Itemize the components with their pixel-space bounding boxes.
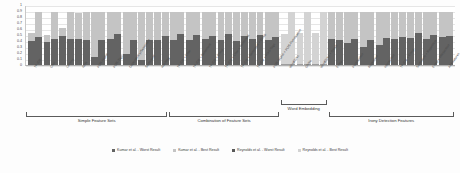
bar[interactable] (44, 6, 51, 65)
bar-segment-best (107, 12, 114, 39)
legend-label: Kumar et al. - Worst Result (117, 149, 160, 153)
bar[interactable] (312, 6, 319, 65)
bar-segment-worst (391, 39, 398, 65)
y-tick-label: 0 (20, 64, 22, 68)
bar-segment-best (383, 12, 390, 38)
bar-segment-best (272, 12, 279, 37)
bar[interactable] (51, 6, 58, 65)
group-bracket-label: Simple Feature Sets (78, 119, 116, 123)
legend-swatch (173, 149, 176, 152)
bar[interactable] (59, 6, 66, 65)
bar[interactable] (91, 6, 98, 65)
bar-segment-worst (75, 39, 82, 65)
bar-segment-best (83, 12, 90, 40)
bar-segment-best (98, 12, 105, 40)
y-tick-label: 0.6 (17, 28, 22, 32)
bar-segment-best (130, 12, 137, 40)
legend-swatch (232, 149, 235, 152)
bar-segment-worst (44, 42, 51, 65)
bar-segment-worst (170, 40, 177, 65)
y-tick-label: 0.9 (17, 10, 22, 14)
chart-legend: Kumar et al. - Worst ResultKumar et al. … (0, 149, 460, 153)
bar-segment-worst (28, 41, 35, 65)
bar[interactable] (35, 6, 42, 65)
bar[interactable] (430, 6, 437, 65)
legend-label: Reynolds et al. - Worst Result (237, 149, 284, 153)
bar[interactable] (28, 6, 35, 65)
bar-segment-best (399, 12, 406, 37)
bar-segment-best (146, 12, 153, 40)
bar[interactable] (415, 6, 422, 65)
y-tick-label: 1 (20, 4, 22, 8)
bar[interactable] (336, 6, 343, 65)
legend-item[interactable]: Kumar et al. - Worst Result (112, 149, 160, 153)
bar-segment-best (218, 12, 225, 40)
legend-swatch (112, 149, 115, 152)
bar-segment-best (336, 12, 343, 40)
bar-segment-best (225, 12, 232, 35)
group-bracket (329, 112, 454, 117)
bar-group[interactable] (74, 6, 90, 65)
bar-segment-worst (312, 64, 319, 65)
bar-segment-best (186, 12, 193, 40)
bar-segment-best (202, 12, 209, 39)
bar[interactable] (67, 6, 74, 65)
bar-segment-worst (154, 40, 161, 65)
legend-item[interactable]: Kumar et al. - Best Result (173, 149, 219, 153)
bar-segment-best (328, 12, 335, 38)
y-tick-label: 0.1 (17, 58, 22, 62)
group-bracket (169, 112, 278, 117)
group-bracket (281, 100, 327, 105)
bar-segment-best (35, 12, 42, 37)
bar-segment-best (170, 12, 177, 40)
y-tick-label: 0.2 (17, 52, 22, 56)
bar-segment-worst (344, 43, 351, 65)
bar[interactable] (83, 6, 90, 65)
bar-segment-worst (59, 36, 66, 65)
bar-segment-best (367, 12, 374, 40)
bar-segment-best (233, 12, 240, 41)
y-tick-label: 0.4 (17, 40, 22, 44)
legend-item[interactable]: Reynolds et al. - Best Result (298, 149, 348, 153)
bar-segment-best (44, 35, 51, 42)
bar-segment-best (114, 12, 121, 35)
bar-segment-best (193, 12, 200, 35)
legend-label: Kumar et al. - Best Result (178, 149, 219, 153)
chart-figure: 10.90.80.70.60.50.40.30.20.10 TF-IDFChar… (0, 0, 460, 173)
bar-segment-best (177, 12, 184, 35)
bar-segment-best (59, 28, 66, 36)
bar-segment-best (51, 12, 58, 39)
y-tick-label: 0.8 (17, 16, 22, 20)
y-tick-label: 0.7 (17, 22, 22, 26)
bar-segment-worst (297, 64, 304, 65)
bar-segment-best (209, 12, 216, 36)
legend-item[interactable]: Reynolds et al. - Worst Result (232, 149, 284, 153)
x-tick-label: NER (82, 61, 89, 69)
bar-segment-best (376, 12, 383, 45)
bar-group[interactable] (27, 6, 43, 65)
y-axis: 10.90.80.70.60.50.40.30.20.10 (0, 6, 24, 66)
bar-segment-best (67, 12, 74, 40)
bar-group[interactable] (59, 6, 75, 65)
bar-segment-best (430, 12, 437, 35)
bar-segment-best (154, 12, 161, 40)
bar-segment-best (360, 12, 367, 47)
bar-segment-best (162, 12, 169, 36)
bar-segment-best (91, 12, 98, 58)
bar[interactable] (344, 6, 351, 65)
bar-segment-best (423, 12, 430, 39)
bar-group[interactable] (43, 6, 59, 65)
bar-segment-best (407, 12, 414, 38)
bar[interactable] (304, 6, 311, 65)
group-bracket (26, 112, 167, 117)
legend-label: Reynolds et al. - Best Result (303, 149, 348, 153)
bar[interactable] (446, 6, 453, 65)
bar-segment-worst (281, 64, 288, 65)
bar-segment-best (446, 12, 453, 36)
bar[interactable] (75, 6, 82, 65)
bar-segment-worst (107, 39, 114, 65)
legend-swatch (298, 149, 301, 152)
bar[interactable] (170, 6, 177, 65)
bar-segment-best (439, 12, 446, 37)
bar-segment-best (28, 33, 35, 41)
